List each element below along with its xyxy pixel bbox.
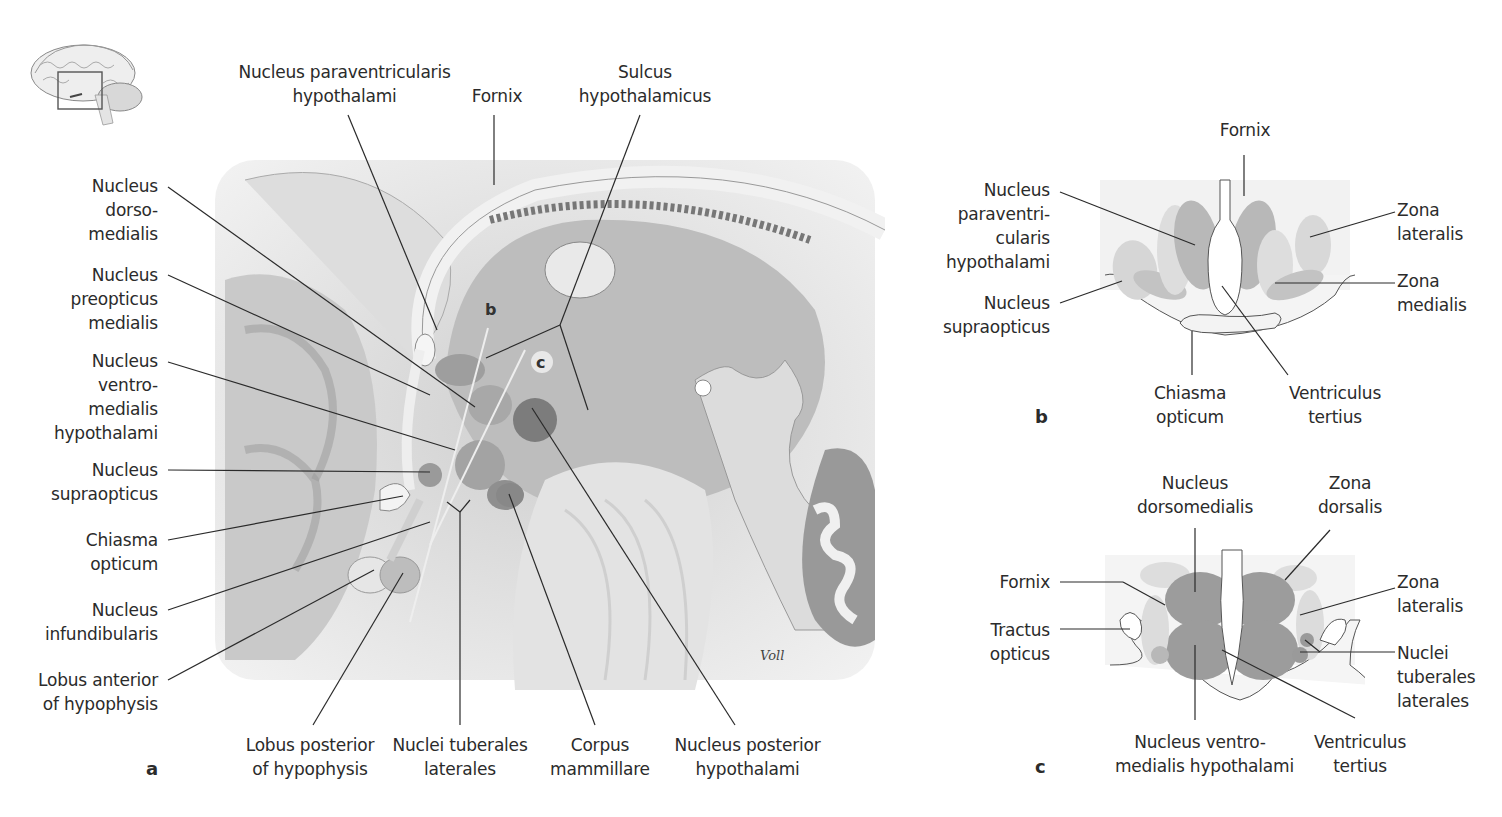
label-line: Chiasma: [1140, 381, 1240, 405]
label-line: Ventriculus: [1300, 730, 1420, 754]
label-line: Nucleus: [0, 174, 158, 198]
label-line: opticus: [950, 642, 1050, 666]
label-line: Nucleus: [0, 349, 158, 373]
label-corpus-mammillare: Corpus mammillare: [540, 733, 660, 781]
panel-letter-a: a: [146, 758, 158, 779]
label-paraventricularis-b: Nucleus paraventri- cularis hypothalami: [900, 178, 1050, 274]
label-ventriculus-c: Ventriculus tertius: [1300, 730, 1420, 778]
label-line: Corpus: [540, 733, 660, 757]
label-line: dorsalis: [1300, 495, 1400, 519]
label-line: opticum: [1140, 405, 1240, 429]
label-line: Lobus anterior: [0, 668, 158, 692]
label-line: medialis: [1397, 293, 1497, 317]
label-line: Chiasma: [0, 528, 158, 552]
label-line: Lobus posterior: [230, 733, 390, 757]
label-nucleus-infundibularis: Nucleus infundibularis: [0, 598, 158, 646]
label-nuclei-tuberales-c: Nuclei tuberales laterales: [1397, 641, 1497, 713]
label-lobus-posterior: Lobus posterior of hypophysis: [230, 733, 390, 781]
label-line: of hypophysis: [0, 692, 158, 716]
label-line: medialis hypothalami: [1115, 754, 1285, 778]
label-chiasma-b: Chiasma opticum: [1140, 381, 1240, 429]
label-line: hypothalamicus: [565, 84, 725, 108]
label-line: preopticus: [0, 287, 158, 311]
label-zona-medialis-b: Zona medialis: [1397, 269, 1497, 317]
label-line: Nucleus: [0, 263, 158, 287]
label-line: Nucleus ventro-: [1115, 730, 1285, 754]
label-line: Nucleus paraventricularis: [232, 60, 457, 84]
label-chiasma-opticum-a: Chiasma opticum: [0, 528, 158, 576]
label-line: Nucleus: [900, 178, 1050, 202]
label-nucleus-paraventricularis: Nucleus paraventricularis hypothalami: [232, 60, 457, 108]
label-line: dorso-: [0, 198, 158, 222]
label-line: Nuclei: [1397, 641, 1497, 665]
label-line: hypothalami: [900, 250, 1050, 274]
label-zona-lateralis-c: Zona lateralis: [1397, 570, 1497, 618]
label-line: Nucleus: [0, 458, 158, 482]
panel-letter-c: c: [1035, 756, 1046, 777]
label-zona-lateralis-b: Zona lateralis: [1397, 198, 1497, 246]
label-line: supraopticus: [0, 482, 158, 506]
label-line: tertius: [1275, 405, 1395, 429]
label-fornix-a: Fornix: [462, 84, 532, 108]
label-nucleus-preopticus-medialis: Nucleus preopticus medialis: [0, 263, 158, 335]
label-line: Zona: [1397, 269, 1497, 293]
label-line: opticum: [0, 552, 158, 576]
label-nucleus-supraopticus-a: Nucleus supraopticus: [0, 458, 158, 506]
panel-letter-b: b: [1035, 406, 1048, 427]
label-line: tertius: [1300, 754, 1420, 778]
label-line: Zona: [1300, 471, 1400, 495]
label-line: hypothalami: [232, 84, 457, 108]
label-line: ventro-: [0, 373, 158, 397]
label-line: Zona: [1397, 198, 1497, 222]
label-line: paraventri-: [900, 202, 1050, 226]
label-line: laterales: [385, 757, 535, 781]
label-line: Nucleus posterior: [665, 733, 830, 757]
label-line: infundibularis: [0, 622, 158, 646]
label-tractus-opticus-c: Tractus opticus: [950, 618, 1050, 666]
label-line: tuberales: [1397, 665, 1497, 689]
label-line: Nucleus: [1125, 471, 1265, 495]
label-fornix-b: Fornix: [1205, 118, 1285, 142]
label-line: Zona: [1397, 570, 1497, 594]
label-ventriculus-b: Ventriculus tertius: [1275, 381, 1395, 429]
label-line: Nuclei tuberales: [385, 733, 535, 757]
label-line: Nucleus: [0, 598, 158, 622]
label-line: mammillare: [540, 757, 660, 781]
label-line: laterales: [1397, 689, 1497, 713]
label-line: Ventriculus: [1275, 381, 1395, 405]
label-dorsomedialis-c: Nucleus dorsomedialis: [1125, 471, 1265, 519]
label-line: cularis: [900, 226, 1050, 250]
label-supraopticus-b: Nucleus supraopticus: [900, 291, 1050, 339]
label-sulcus-hypothalamicus: Sulcus hypothalamicus: [565, 60, 725, 108]
label-line: hypothalami: [665, 757, 830, 781]
label-line: hypothalami: [0, 421, 158, 445]
label-zona-dorsalis-c: Zona dorsalis: [1300, 471, 1400, 519]
label-line: Sulcus: [565, 60, 725, 84]
label-line: lateralis: [1397, 222, 1497, 246]
label-line: Nucleus: [900, 291, 1050, 315]
label-line: lateralis: [1397, 594, 1497, 618]
label-nucleus-ventromedialis-a: Nucleus ventro- medialis hypothalami: [0, 349, 158, 445]
label-nucleus-posterior: Nucleus posterior hypothalami: [665, 733, 830, 781]
label-lobus-anterior: Lobus anterior of hypophysis: [0, 668, 158, 716]
label-nuclei-tuberales-a: Nuclei tuberales laterales: [385, 733, 535, 781]
label-line: Tractus: [950, 618, 1050, 642]
label-nucleus-dorsomedialis-a: Nucleus dorso- medialis: [0, 174, 158, 246]
label-line: supraopticus: [900, 315, 1050, 339]
label-fornix-c: Fornix: [950, 570, 1050, 594]
label-ventromedialis-c: Nucleus ventro- medialis hypothalami: [1115, 730, 1285, 778]
label-line: medialis: [0, 311, 158, 335]
label-line: medialis: [0, 222, 158, 246]
label-line: of hypophysis: [230, 757, 390, 781]
label-line: dorsomedialis: [1125, 495, 1265, 519]
label-line: medialis: [0, 397, 158, 421]
